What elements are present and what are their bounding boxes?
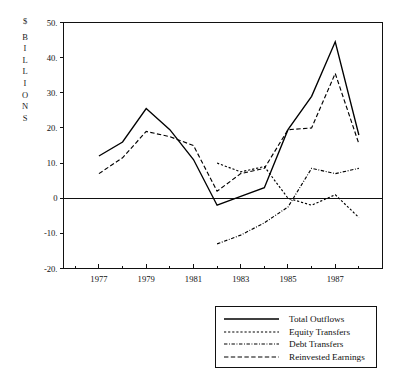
data-series-group — [99, 42, 359, 244]
legend-line-swatch — [223, 339, 280, 349]
x-tick-label: 1979 — [138, 274, 155, 284]
chart-figure: $BILLIONS 50.40.30.20.10.0-10.-20. 19771… — [0, 0, 408, 386]
legend-item: Debt Transfers — [223, 338, 371, 351]
legend-item: Reinvested Earnings — [223, 351, 371, 364]
legend-item: Total Outflows — [223, 313, 371, 326]
x-tick-label: 1977 — [90, 274, 108, 284]
y-axis-ticks: 50.40.30.20.10.0-10.-20. — [44, 18, 64, 274]
legend-item-label: Reinvested Earnings — [280, 352, 365, 362]
x-tick-label: 1983 — [232, 274, 249, 284]
y-tick-label: 10. — [47, 158, 58, 168]
x-tick-label: 1985 — [279, 274, 296, 284]
x-axis-ticks: 197719791981198319851987 — [75, 264, 359, 284]
legend-line-swatch — [223, 327, 280, 337]
legend-item-label: Equity Transfers — [280, 327, 350, 337]
legend-item-label: Total Outflows — [280, 314, 344, 324]
y-tick-label: -10. — [44, 228, 58, 238]
y-tick-label: 20. — [47, 123, 58, 133]
legend-item-label: Debt Transfers — [280, 339, 343, 349]
x-tick-label: 1987 — [327, 274, 345, 284]
legend-item: Equity Transfers — [223, 326, 371, 339]
y-tick-label: 0 — [53, 193, 57, 203]
x-tick-label: 1981 — [185, 274, 202, 284]
series-line — [99, 42, 359, 205]
y-tick-label: 40. — [47, 53, 58, 63]
series-line — [99, 73, 359, 191]
y-tick-label: -20. — [44, 264, 58, 274]
chart-legend: Total OutflowsEquity TransfersDebt Trans… — [215, 306, 377, 368]
y-tick-label: 30. — [47, 88, 58, 98]
legend-line-swatch — [223, 352, 280, 362]
legend-items: Total OutflowsEquity TransfersDebt Trans… — [223, 313, 371, 362]
series-line — [217, 168, 359, 244]
y-tick-label: 50. — [47, 18, 58, 28]
axis-frame — [64, 23, 383, 269]
legend-line-swatch — [223, 314, 280, 324]
series-line — [217, 163, 359, 217]
